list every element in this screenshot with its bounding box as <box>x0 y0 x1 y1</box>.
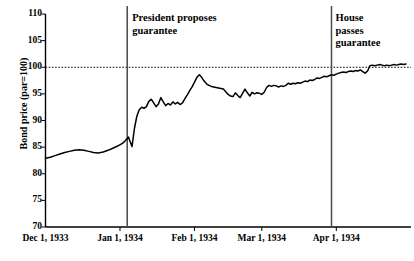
plot-area <box>0 0 414 261</box>
axis-lines <box>42 14 412 231</box>
bond-price-chart: Bond price (par=100) 7075808590951001051… <box>0 0 414 261</box>
data-series <box>46 64 407 158</box>
reference-lines <box>46 6 412 227</box>
